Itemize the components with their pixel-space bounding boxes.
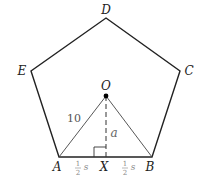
pentagon-diagram: D E C A B O X 10 a 1 2 s 1 2 s <box>0 0 203 181</box>
label-radius-10: 10 <box>67 112 81 125</box>
svg-text:2: 2 <box>76 169 80 177</box>
label-B: B <box>145 160 155 174</box>
label-D: D <box>100 3 111 17</box>
diagram-canvas: D E C A B O X 10 a 1 2 s 1 2 s <box>0 0 203 181</box>
label-X: X <box>99 160 109 174</box>
label-half-side-left: 1 2 s <box>75 160 89 177</box>
svg-text:s: s <box>131 162 136 172</box>
label-half-side-right: 1 2 s <box>122 160 136 177</box>
segment-OA <box>59 96 106 157</box>
svg-text:s: s <box>84 162 89 172</box>
svg-text:1: 1 <box>123 160 127 168</box>
label-apothem-a: a <box>110 126 117 140</box>
svg-text:2: 2 <box>123 169 127 177</box>
right-angle-marker <box>94 147 106 157</box>
label-A: A <box>52 160 62 174</box>
label-C: C <box>184 64 193 78</box>
label-E: E <box>17 64 27 78</box>
center-point-O <box>104 94 109 99</box>
svg-text:1: 1 <box>76 160 80 168</box>
label-O: O <box>101 79 111 93</box>
